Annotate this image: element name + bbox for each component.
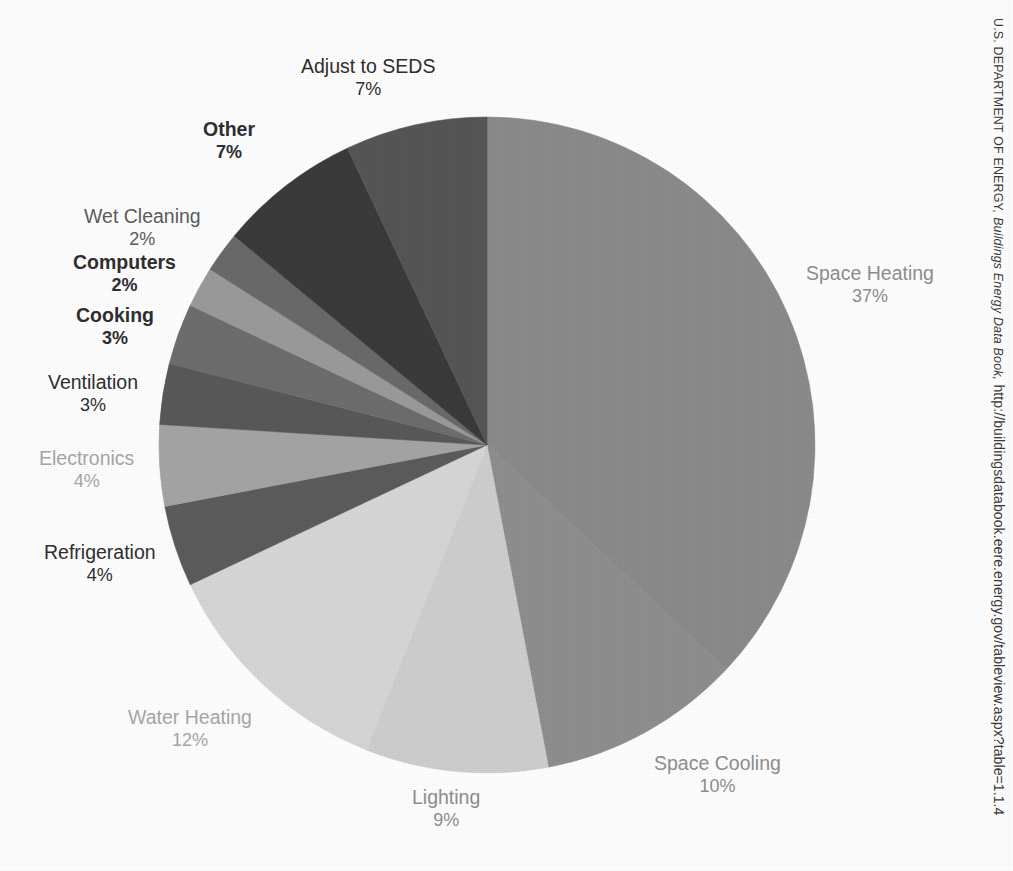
pie-label-percent: 12% (128, 730, 252, 752)
pie-label-name: Water Heating (128, 706, 252, 730)
source-citation: U.S. DEPARTMENT OF ENERGY, Buildings Ene… (987, 18, 1009, 854)
pie-label-name: Lighting (412, 786, 480, 810)
pie-svg (157, 115, 817, 775)
pie-label-percent: 2% (84, 229, 201, 251)
source-citation-text: U.S. DEPARTMENT OF ENERGY, Buildings Ene… (991, 18, 1007, 815)
pie-label-refrigeration: Refrigeration 4% (44, 541, 156, 587)
source-publication: Buildings Energy Data Book, (991, 217, 1005, 380)
pie-label-percent: 2% (73, 275, 176, 297)
pie-label-name: Computers (73, 251, 176, 275)
pie-label-other: Other 7% (203, 118, 255, 164)
pie-label-wet-cleaning: Wet Cleaning 2% (84, 205, 201, 251)
pie-label-percent: 3% (48, 395, 138, 417)
pie-label-name: Electronics (39, 447, 134, 471)
pie-label-name: Other (203, 118, 255, 142)
pie-label-percent: 4% (44, 565, 156, 587)
pie-label-adjust-to-seds: Adjust to SEDS 7% (301, 55, 435, 101)
source-url: http://buildingsdatabook.eere.energy.gov… (991, 384, 1007, 815)
pie-label-name: Space Cooling (654, 752, 781, 776)
pie-label-cooking: Cooking 3% (76, 304, 154, 350)
pie-label-percent: 37% (806, 286, 934, 308)
pie-label-name: Ventilation (48, 371, 138, 395)
pie-label-lighting: Lighting 9% (412, 786, 480, 832)
pie-label-computers: Computers 2% (73, 251, 176, 297)
pie-label-name: Refrigeration (44, 541, 156, 565)
pie-label-percent: 7% (203, 142, 255, 164)
pie-label-percent: 4% (39, 471, 134, 493)
pie-label-name: Wet Cleaning (84, 205, 201, 229)
pie-label-name: Cooking (76, 304, 154, 328)
pie-label-ventilation: Ventilation 3% (48, 371, 138, 417)
pie-label-name: Adjust to SEDS (301, 55, 435, 79)
pie-label-water-heating: Water Heating 12% (128, 706, 252, 752)
pie-label-electronics: Electronics 4% (39, 447, 134, 493)
pie-slice-group (159, 117, 815, 773)
pie-label-percent: 9% (412, 810, 480, 832)
pie-label-space-heating: Space Heating 37% (806, 262, 934, 308)
pie-label-percent: 3% (76, 328, 154, 350)
pie-chart-figure: Space Heating 37% Space Cooling 10% Ligh… (0, 0, 930, 871)
pie-label-space-cooling: Space Cooling 10% (654, 752, 781, 798)
pie-label-name: Space Heating (806, 262, 934, 286)
source-agency: U.S. DEPARTMENT OF ENERGY, (991, 18, 1005, 213)
pie-label-percent: 10% (654, 776, 781, 798)
pie-label-percent: 7% (301, 79, 435, 101)
pie-chart-graphic (157, 115, 817, 775)
